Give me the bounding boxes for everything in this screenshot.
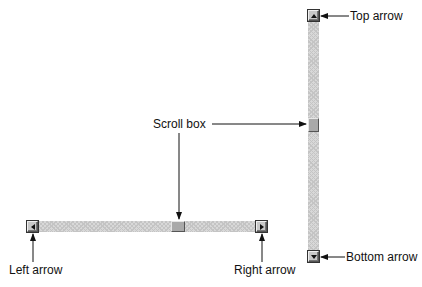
- right-arrow-label: Right arrow: [234, 263, 295, 277]
- top-arrow-label: Top arrow: [350, 9, 403, 23]
- scroll-box-label: Scroll box: [153, 117, 206, 131]
- callout-arrows: [0, 0, 422, 287]
- left-arrow-label: Left arrow: [9, 263, 62, 277]
- bottom-arrow-label: Bottom arrow: [346, 250, 417, 264]
